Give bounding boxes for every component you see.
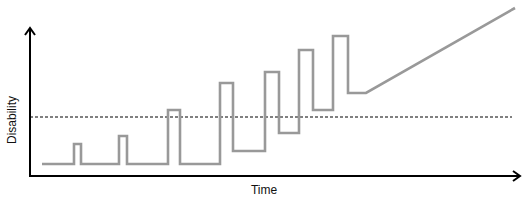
x-axis-label: Time — [0, 183, 532, 197]
y-axis-label-text: Disability — [5, 96, 19, 144]
disability-time-chart — [0, 0, 532, 205]
x-axis-label-text: Time — [251, 183, 277, 197]
y-axis-label: Disability — [2, 90, 22, 150]
disability-series-line — [42, 8, 515, 164]
